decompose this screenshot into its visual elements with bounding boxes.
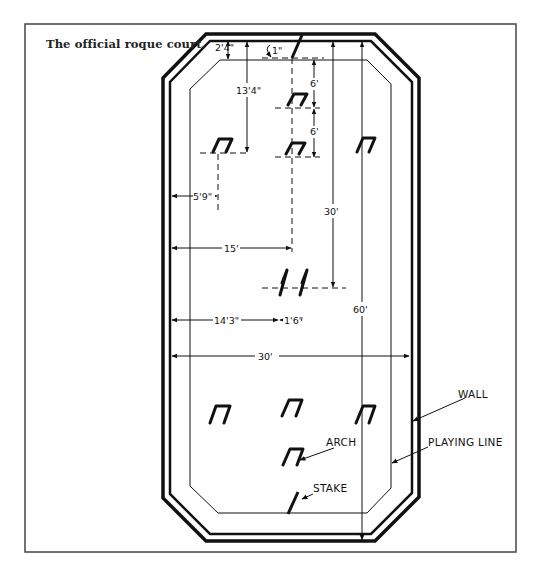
outer-wall [163,34,419,541]
dim-label-cage-offset: 14'3" [214,315,239,326]
arch-icon [288,94,307,105]
stake-top [292,35,302,58]
label-wall: WALL [458,388,488,400]
dim-label-full-length: 60' [353,304,368,315]
label-arch: ARCH [326,436,356,448]
arch-icon [210,406,230,423]
cage-arch-right [300,270,307,295]
dim-label-full-width: 30' [258,351,273,362]
arch-icon [283,449,303,465]
dim-label-half-width: 15' [224,243,239,254]
dim-label-corner-offset: 2'4" [215,42,234,53]
callout-wall [413,398,465,421]
callout-playing-line [392,447,428,463]
figure-caption: The official roque court. [46,37,206,51]
dim-stake-offset [267,45,271,57]
court-diagram: 2'4" 1" 13'4" 6' 6' 30' 60' 5'9" 15' 14'… [0,0,540,573]
dim-label-half-length: 30' [324,206,339,217]
dim-label-cage-width: 1'6" [284,315,303,326]
cage-arch-left [280,270,287,295]
roque-court-figure: The official roque court. [0,0,540,573]
label-stake: STAKE [313,482,347,494]
dim-label-arch-spacing-2: 6' [310,126,319,137]
callout-stake [302,494,313,499]
arch-icon [282,400,302,416]
arch-icon [286,143,305,154]
stake-bottom [288,492,298,514]
arch-icon [213,139,232,152]
dim-label-corner-arch-side: 5'9" [193,191,212,202]
dim-label-arch-spacing-1: 6' [310,78,319,89]
callout-arch [300,448,334,460]
arch-icon [357,138,375,152]
figure-frame [25,24,516,552]
dim-label-stake-offset: 1" [272,45,282,56]
arch-icon [356,406,375,423]
label-playing-line: PLAYING LINE [428,436,503,448]
playing-line [190,60,391,513]
dim-label-corner-arch-depth: 13'4" [236,85,261,96]
inner-wall [170,41,412,534]
